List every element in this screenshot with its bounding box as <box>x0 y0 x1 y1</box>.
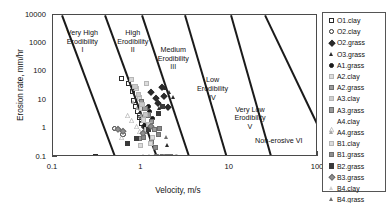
zone-label-line: IV <box>173 94 253 103</box>
legend-marker-icon <box>326 194 337 203</box>
legend-item[interactable]: B4.clay <box>326 183 385 194</box>
legend-marker-icon <box>326 26 337 37</box>
legend-item[interactable]: A2.grass <box>326 82 385 93</box>
y-tick-label: 1 <box>0 123 46 132</box>
legend-item[interactable]: O3.grass <box>326 49 385 60</box>
data-point <box>136 92 141 97</box>
legend-marker-icon <box>326 127 337 138</box>
legend-item[interactable]: A2.clay <box>326 71 385 82</box>
data-point <box>137 120 142 125</box>
legend-marker-icon <box>326 15 337 26</box>
legend-item[interactable]: B1.clay <box>326 138 385 149</box>
legend-label: B4.grass <box>337 194 364 203</box>
x-tick-label: 1 <box>120 162 160 171</box>
y-tick-mark <box>52 156 57 157</box>
legend-marker-icon <box>326 82 337 93</box>
data-point <box>175 154 179 155</box>
legend-marker-icon <box>326 161 337 172</box>
data-point <box>167 90 171 94</box>
data-point <box>166 154 170 155</box>
data-point <box>144 81 149 86</box>
data-point <box>157 126 162 131</box>
data-point <box>164 135 168 139</box>
legend-marker-icon <box>326 71 337 82</box>
data-point <box>156 111 161 116</box>
legend-marker-icon <box>326 49 337 60</box>
y-tick-label: 10000 <box>0 10 46 19</box>
legend-item[interactable]: B4.grass <box>326 194 385 203</box>
legend-label: A4.clay <box>337 116 360 127</box>
x-tick-label: 0.1 <box>32 162 72 171</box>
legend-item[interactable]: A3.grass <box>326 105 385 116</box>
data-point <box>165 143 169 147</box>
legend-item[interactable]: O1.clay <box>326 15 385 26</box>
legend-marker-icon <box>326 105 337 116</box>
data-point <box>161 93 167 99</box>
data-point <box>160 104 165 109</box>
legend-marker-icon <box>326 37 337 48</box>
legend-marker-icon <box>326 138 337 149</box>
y-tick-label: 10 <box>0 95 46 104</box>
data-point <box>139 113 143 117</box>
legend-label: B2.grass <box>337 161 364 172</box>
legend-label: O2.clay <box>337 26 360 37</box>
legend-item[interactable]: B3.grass <box>326 172 385 183</box>
legend-marker-icon <box>326 93 337 104</box>
legend-item[interactable]: B2.grass <box>326 160 385 171</box>
y-tick-label: 1000 <box>0 38 46 47</box>
legend-label: A3.clay <box>337 93 360 104</box>
zone-label-iv: LowErodibilityIV <box>173 76 253 102</box>
legend-label: B1.grass <box>337 149 364 160</box>
legend-item[interactable]: A3.clay <box>326 93 385 104</box>
legend-item[interactable]: A4.clay <box>326 116 385 127</box>
zone-label-vi: Non-erosive VI <box>239 137 316 146</box>
x-tick-mark <box>317 151 318 156</box>
data-point <box>156 132 161 137</box>
legend-label: O1.clay <box>337 15 360 26</box>
data-point <box>157 154 161 155</box>
legend-marker-icon <box>326 60 337 71</box>
zone-label-line: V <box>210 123 290 132</box>
data-point <box>148 141 153 146</box>
legend-marker-icon <box>326 116 337 127</box>
legend-item[interactable]: O2.clay <box>326 26 385 37</box>
legend-label: A4.grass <box>337 127 364 138</box>
legend-item[interactable]: O2.grass <box>326 37 385 48</box>
data-point <box>152 154 156 155</box>
x-tick-label: 10 <box>209 162 249 171</box>
y-tick-label: 0.1 <box>0 152 46 161</box>
legend-label: A3.grass <box>337 105 364 116</box>
data-point <box>143 112 148 117</box>
legend-label: B1.clay <box>337 138 360 149</box>
data-point <box>131 100 135 104</box>
legend-label: O3.grass <box>337 49 365 60</box>
zone-label-iii: MediumErodibilityIII <box>133 46 213 72</box>
x-axis-label: Velocity, m/s <box>108 186 248 195</box>
zone-label-line: Non-erosive VI <box>239 137 316 146</box>
legend-marker-icon <box>326 183 337 194</box>
zone-label-line: III <box>133 63 213 72</box>
y-tick-label: 100 <box>0 66 46 75</box>
data-point <box>153 145 158 150</box>
chart-figure: Erosion rate, mm/hr Velocity, m/s 0.1110… <box>0 0 392 203</box>
legend-marker-icon <box>326 172 337 183</box>
legend-label: O2.grass <box>337 37 365 48</box>
data-point <box>138 143 143 148</box>
data-point <box>141 154 145 155</box>
legend[interactable]: O1.clayO2.clayO2.grassO3.grassA1.grassA2… <box>322 12 386 192</box>
legend-label: B3.grass <box>337 172 364 183</box>
legend-label: B4.clay <box>337 183 360 194</box>
data-point <box>119 76 124 81</box>
data-point <box>171 95 175 99</box>
zone-label-v: Very LowErodibilityV <box>210 106 290 132</box>
data-point <box>93 154 98 155</box>
data-point <box>125 141 130 146</box>
data-point <box>148 88 154 94</box>
data-point <box>129 109 134 114</box>
data-point <box>139 102 144 107</box>
legend-label: A1.grass <box>337 60 364 71</box>
data-point <box>134 136 139 141</box>
legend-item[interactable]: A1.grass <box>326 60 385 71</box>
legend-item[interactable]: A4.grass <box>326 127 385 138</box>
legend-item[interactable]: B1.grass <box>326 149 385 160</box>
